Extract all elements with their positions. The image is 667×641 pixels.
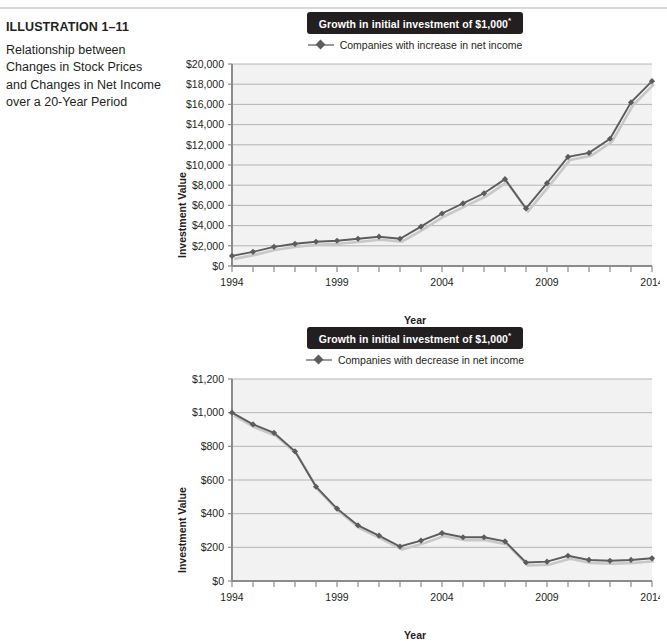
svg-text:1994: 1994 [220, 591, 244, 603]
chart1-legend-label: Companies with increase in net income [340, 39, 523, 51]
svg-text:2009: 2009 [535, 276, 559, 288]
chart2-y-axis-title: Investment Value [176, 487, 188, 573]
svg-text:2004: 2004 [430, 591, 454, 603]
svg-text:1994: 1994 [220, 276, 244, 288]
chart2-legend: Companies with decrease in net income [170, 354, 660, 366]
chart2-title-asterisk: * [508, 331, 511, 340]
chart1-header: Growth in initial investment of $1,000* … [170, 12, 660, 58]
svg-text:2009: 2009 [535, 591, 559, 603]
illustration-caption: ILLUSTRATION 1–11 Relationship between C… [6, 20, 166, 111]
svg-text:$18,000: $18,000 [186, 78, 224, 90]
svg-text:1999: 1999 [325, 591, 349, 603]
svg-text:$1,200: $1,200 [192, 373, 224, 385]
svg-text:$2,000: $2,000 [192, 240, 224, 252]
svg-text:$0: $0 [212, 575, 224, 587]
svg-text:$10,000: $10,000 [186, 159, 224, 171]
chart2-title-text: Growth in initial investment of $1,000 [319, 333, 508, 345]
illustration-number: ILLUSTRATION 1–11 [6, 20, 166, 35]
chart2-title: Growth in initial investment of $1,000* [307, 327, 524, 349]
illustration-description: Relationship between Changes in Stock Pr… [6, 42, 166, 111]
svg-text:$8,000: $8,000 [192, 179, 224, 191]
svg-text:$1,000: $1,000 [192, 406, 224, 418]
chart1-legend: Companies with increase in net income [170, 39, 660, 51]
line-diamond-marker-icon [306, 355, 332, 365]
chart1-plot-area: Investment Value $0$2,000$4,000$6,000$8,… [170, 58, 660, 326]
svg-text:2014: 2014 [640, 591, 660, 603]
chart-growth-decrease: Growth in initial investment of $1,000* … [170, 327, 660, 641]
chart1-y-axis-title: Investment Value [176, 172, 188, 258]
svg-text:$12,000: $12,000 [186, 139, 224, 151]
svg-text:$14,000: $14,000 [186, 118, 224, 130]
chart1-x-axis-title: Year [170, 314, 660, 326]
chart1-title: Growth in initial investment of $1,000* [307, 12, 524, 34]
svg-text:$800: $800 [201, 440, 225, 452]
chart2-svg: $0$200$400$600$800$1,000$1,2001994199920… [170, 373, 660, 628]
svg-text:$6,000: $6,000 [192, 199, 224, 211]
chart1-svg: $0$2,000$4,000$6,000$8,000$10,000$12,000… [170, 58, 660, 313]
svg-text:1999: 1999 [325, 276, 349, 288]
svg-text:$200: $200 [201, 541, 225, 553]
chart2-plot-area: Investment Value $0$200$400$600$800$1,00… [170, 373, 660, 641]
svg-text:2004: 2004 [430, 276, 454, 288]
svg-text:$16,000: $16,000 [186, 98, 224, 110]
chart2-header: Growth in initial investment of $1,000* … [170, 327, 660, 373]
svg-text:$4,000: $4,000 [192, 219, 224, 231]
svg-text:$20,000: $20,000 [186, 58, 224, 70]
line-diamond-marker-icon [308, 40, 334, 50]
svg-text:$0: $0 [212, 260, 224, 272]
chart-growth-increase: Growth in initial investment of $1,000* … [170, 12, 660, 326]
svg-text:$600: $600 [201, 474, 225, 486]
chart2-legend-label: Companies with decrease in net income [338, 354, 524, 366]
chart1-title-text: Growth in initial investment of $1,000 [319, 18, 508, 30]
chart1-title-asterisk: * [508, 16, 511, 25]
page-top-rule [0, 7, 667, 9]
svg-text:2014: 2014 [640, 276, 660, 288]
svg-text:$400: $400 [201, 507, 225, 519]
chart2-x-axis-title: Year [170, 629, 660, 641]
